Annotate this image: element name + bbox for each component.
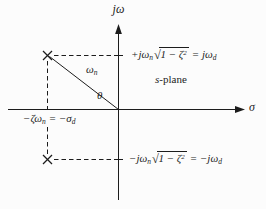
pole-marker-upper <box>43 51 52 60</box>
diagram-canvas <box>0 0 266 209</box>
pole-marker-lower <box>43 155 52 164</box>
radical-sign: √ <box>152 152 159 166</box>
natural-frequency-label: ωn <box>86 63 98 78</box>
imaginary-axis-arrowhead-icon <box>115 24 122 34</box>
lower-pole-annotation: −jωn√1 − ζ2= −jωd <box>129 151 222 167</box>
imaginary-axis-label: jω <box>105 3 132 17</box>
radical-sign: √ <box>154 48 161 62</box>
natural-frequency-vector <box>50 57 119 110</box>
real-axis-label: σ <box>249 101 255 115</box>
angle-theta-label: θ <box>97 89 102 102</box>
s-plane-pole-diagram: jω σ ωn θ s-plane +jωn√1 − ζ2= jωd −jωn√… <box>0 0 266 209</box>
s-plane-caption: s-plane <box>155 73 187 86</box>
real-axis-arrowhead-icon <box>235 106 245 113</box>
real-axis-annotation: −ζωn= −σd <box>23 112 76 127</box>
upper-pole-annotation: +jωn√1 − ζ2= jωd <box>131 47 217 63</box>
